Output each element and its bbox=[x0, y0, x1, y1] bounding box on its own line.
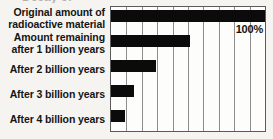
radioactive-decay-bar-chart: Decay of Original amount of radioactive … bbox=[0, 0, 273, 139]
category-label-column: Original amount of radioactive material … bbox=[0, 0, 110, 139]
bar-after-3-billion-years bbox=[111, 85, 134, 97]
category-label-original-amount: Original amount of radioactive material bbox=[8, 6, 105, 30]
bar-after-4-billion-years bbox=[111, 110, 125, 122]
plot-area: 100% bbox=[110, 6, 266, 132]
bar-after-1-billion-years bbox=[111, 35, 190, 47]
bar-after-2-billion-years bbox=[111, 60, 156, 72]
category-label-after-4-billion-years: After 4 billion years bbox=[10, 113, 105, 125]
category-label-after-3-billion-years: After 3 billion years bbox=[10, 88, 105, 100]
category-label-after-1-billion-years: Amount remaining after 1 billion years bbox=[11, 31, 105, 55]
bar-original-amount bbox=[111, 10, 265, 22]
category-label-after-2-billion-years: After 2 billion years bbox=[10, 63, 105, 75]
value-label-100-percent: 100% bbox=[236, 23, 263, 35]
